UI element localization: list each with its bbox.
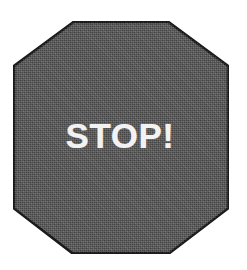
octagon-sign: STOP! xyxy=(13,21,229,254)
stop-sign-image: STOP! xyxy=(0,0,247,270)
octagon-polygon xyxy=(14,22,228,253)
octagon-shape-icon xyxy=(13,21,229,254)
